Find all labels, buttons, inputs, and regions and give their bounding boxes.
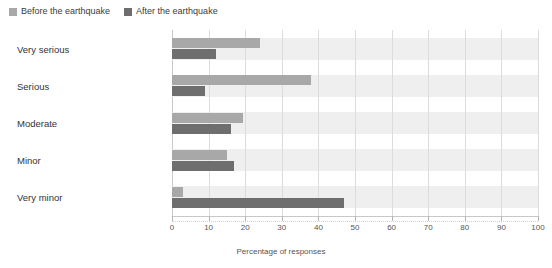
bar[interactable] xyxy=(172,49,216,59)
gridline xyxy=(538,30,539,216)
x-tick-mark xyxy=(501,216,502,221)
bar[interactable] xyxy=(172,124,231,134)
legend-label: After the earthquake xyxy=(136,7,218,16)
bar[interactable] xyxy=(172,113,243,123)
x-tick-label: 10 xyxy=(204,223,213,232)
x-tick-label: 30 xyxy=(277,223,286,232)
x-tick-mark xyxy=(355,216,356,221)
gridline xyxy=(355,30,356,216)
x-tick-label: 20 xyxy=(241,223,250,232)
x-tick-label: 70 xyxy=(424,223,433,232)
gridline xyxy=(501,30,502,216)
bar[interactable] xyxy=(172,75,311,85)
category-label: Moderate xyxy=(17,118,57,129)
x-tick-label: 40 xyxy=(314,223,323,232)
x-tick-mark xyxy=(538,216,539,221)
bar[interactable] xyxy=(172,38,260,48)
x-tick-mark xyxy=(465,216,466,221)
x-tick-label: 0 xyxy=(170,223,174,232)
bar[interactable] xyxy=(172,161,234,171)
x-tick-label: 90 xyxy=(497,223,506,232)
category-label: Very minor xyxy=(17,192,62,203)
bar[interactable] xyxy=(172,150,227,160)
bar-chart: Before the earthquakeAfter the earthquak… xyxy=(0,0,552,268)
bar[interactable] xyxy=(172,198,344,208)
bar[interactable] xyxy=(172,187,183,197)
legend-entry[interactable]: Before the earthquake xyxy=(9,7,110,16)
gridline xyxy=(392,30,393,216)
x-tick-mark xyxy=(172,216,173,221)
plot-area xyxy=(172,30,538,216)
gridline xyxy=(282,30,283,216)
category-label: Very serious xyxy=(17,43,69,54)
x-tick-label: 80 xyxy=(460,223,469,232)
legend-entry[interactable]: After the earthquake xyxy=(124,7,218,16)
category-label: Minor xyxy=(17,155,41,166)
category-label: Serious xyxy=(17,80,49,91)
x-tick-mark xyxy=(245,216,246,221)
x-tick-label: 50 xyxy=(351,223,360,232)
x-axis-title-text: Percentage of responses xyxy=(237,247,326,256)
square-swatch xyxy=(9,8,17,16)
bar[interactable] xyxy=(172,86,205,96)
x-tick-label: 100 xyxy=(531,223,544,232)
x-tick-mark xyxy=(392,216,393,221)
gridline xyxy=(465,30,466,216)
x-tick-label: 60 xyxy=(387,223,396,232)
legend-label: Before the earthquake xyxy=(21,7,110,16)
gridline xyxy=(318,30,319,216)
gridline xyxy=(245,30,246,216)
chart-legend: Before the earthquakeAfter the earthquak… xyxy=(9,5,218,18)
x-tick-mark xyxy=(209,216,210,221)
x-axis-title: Percentage of responses xyxy=(0,247,552,256)
gridline xyxy=(428,30,429,216)
x-tick-mark xyxy=(318,216,319,221)
square-swatch xyxy=(124,8,132,16)
x-tick-mark xyxy=(428,216,429,221)
x-tick-mark xyxy=(282,216,283,221)
